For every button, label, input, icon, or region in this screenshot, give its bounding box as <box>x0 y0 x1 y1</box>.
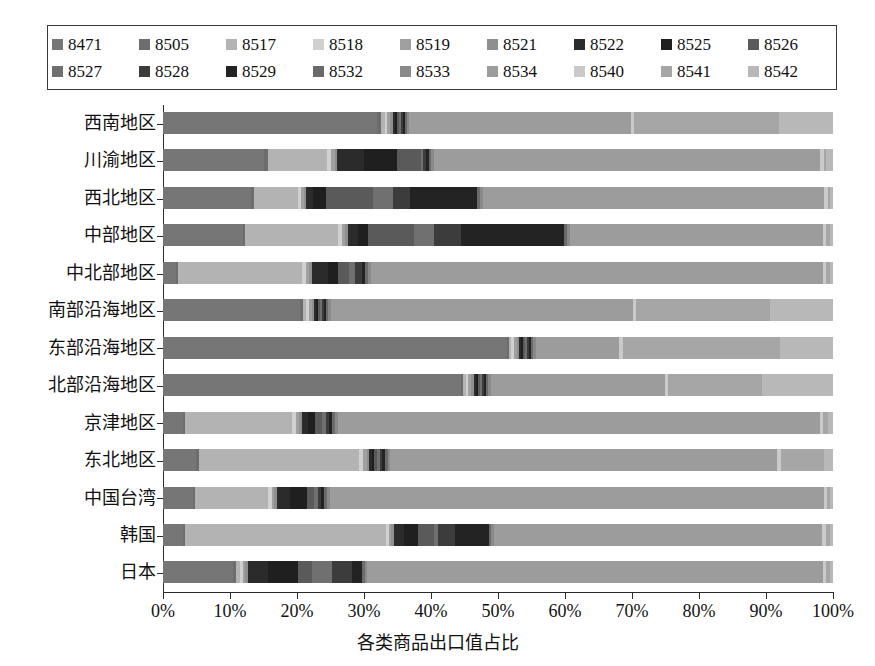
bar-segment-8534[interactable] <box>367 561 823 583</box>
bar-segment-8526[interactable] <box>368 224 415 246</box>
bar-segment-8526[interactable] <box>315 412 322 434</box>
bar-segment-8517[interactable] <box>185 524 386 546</box>
bar-segment-8534[interactable] <box>483 187 825 209</box>
bar-segment-8534[interactable] <box>536 337 619 359</box>
stacked-bar[interactable] <box>163 262 833 284</box>
stacked-bar[interactable] <box>163 561 833 583</box>
bar-segment-8517[interactable] <box>245 224 338 246</box>
bar-segment-8517[interactable] <box>268 149 328 171</box>
bar-segment-8517[interactable] <box>195 487 268 509</box>
bar-segment-8522[interactable] <box>248 561 268 583</box>
stacked-bar[interactable] <box>163 487 833 509</box>
bar-segment-8542[interactable] <box>830 187 833 209</box>
legend-item-8525[interactable]: 8525 <box>661 36 748 53</box>
bar-segment-8542[interactable] <box>830 487 833 509</box>
bar-segment-8522[interactable] <box>277 487 290 509</box>
bar-segment-8471[interactable] <box>163 337 507 359</box>
bar-segment-8525[interactable] <box>313 187 326 209</box>
bar-segment-8527[interactable] <box>414 224 434 246</box>
bar-segment-8542[interactable] <box>824 449 833 471</box>
bar-segment-8541[interactable] <box>781 449 824 471</box>
bar-segment-8525[interactable] <box>364 149 397 171</box>
bar-segment-8525[interactable] <box>358 224 368 246</box>
stacked-bar[interactable] <box>163 374 833 396</box>
stacked-bar[interactable] <box>163 112 833 134</box>
bar-segment-8534[interactable] <box>330 487 824 509</box>
bar-segment-8527[interactable] <box>312 561 332 583</box>
stacked-bar[interactable] <box>163 224 833 246</box>
legend-item-8534[interactable]: 8534 <box>487 63 574 80</box>
bar-segment-8517[interactable] <box>254 187 298 209</box>
legend-item-8527[interactable]: 8527 <box>52 63 139 80</box>
bar-segment-8471[interactable] <box>163 524 183 546</box>
stacked-bar[interactable] <box>163 299 833 321</box>
legend-item-8542[interactable]: 8542 <box>748 63 835 80</box>
bar-segment-8529[interactable] <box>455 524 489 546</box>
bar-segment-8471[interactable] <box>163 374 461 396</box>
bar-segment-8529[interactable] <box>410 187 477 209</box>
bar-segment-8526[interactable] <box>307 487 314 509</box>
bar-segment-8471[interactable] <box>163 187 251 209</box>
bar-segment-8528[interactable] <box>393 187 410 209</box>
legend-item-8519[interactable]: 8519 <box>400 36 487 53</box>
legend-item-8528[interactable]: 8528 <box>139 63 226 80</box>
legend-item-8540[interactable]: 8540 <box>574 63 661 80</box>
legend-item-8522[interactable]: 8522 <box>574 36 661 53</box>
bar-segment-8534[interactable] <box>331 299 633 321</box>
legend-item-8532[interactable]: 8532 <box>313 63 400 80</box>
bar-segment-8471[interactable] <box>163 487 193 509</box>
bar-segment-8541[interactable] <box>634 112 779 134</box>
bar-segment-8471[interactable] <box>163 561 233 583</box>
bar-segment-8471[interactable] <box>163 224 243 246</box>
bar-segment-8541[interactable] <box>636 299 770 321</box>
bar-segment-8517[interactable] <box>178 262 302 284</box>
bar-segment-8522[interactable] <box>394 524 404 546</box>
bar-segment-8528[interactable] <box>355 262 362 284</box>
bar-segment-8542[interactable] <box>780 337 833 359</box>
bar-segment-8542[interactable] <box>830 262 833 284</box>
bar-segment-8541[interactable] <box>668 374 762 396</box>
bar-segment-8471[interactable] <box>163 412 183 434</box>
stacked-bar[interactable] <box>163 449 833 471</box>
legend-item-8541[interactable]: 8541 <box>661 63 748 80</box>
bar-segment-8522[interactable] <box>337 149 364 171</box>
bar-segment-8542[interactable] <box>830 561 833 583</box>
bar-segment-8542[interactable] <box>762 374 833 396</box>
bar-segment-8517[interactable] <box>185 412 292 434</box>
bar-segment-8525[interactable] <box>290 487 307 509</box>
bar-segment-8542[interactable] <box>830 524 833 546</box>
bar-segment-8471[interactable] <box>163 149 264 171</box>
stacked-bar[interactable] <box>163 337 833 359</box>
bar-segment-8534[interactable] <box>338 412 820 434</box>
bar-segment-8534[interactable] <box>434 149 820 171</box>
legend-item-8505[interactable]: 8505 <box>139 36 226 53</box>
stacked-bar[interactable] <box>163 524 833 546</box>
bar-segment-8529[interactable] <box>352 561 362 583</box>
bar-segment-8542[interactable] <box>770 299 833 321</box>
bar-segment-8534[interactable] <box>371 262 823 284</box>
bar-segment-8542[interactable] <box>779 112 833 134</box>
legend-item-8518[interactable]: 8518 <box>313 36 400 53</box>
bar-segment-8528[interactable] <box>438 524 455 546</box>
bar-segment-8517[interactable] <box>199 449 359 471</box>
bar-segment-8525[interactable] <box>308 412 315 434</box>
legend-item-8533[interactable]: 8533 <box>400 63 487 80</box>
bar-segment-8471[interactable] <box>163 112 377 134</box>
bar-segment-8471[interactable] <box>163 449 196 471</box>
stacked-bar[interactable] <box>163 149 833 171</box>
legend-item-8526[interactable]: 8526 <box>748 36 835 53</box>
bar-segment-8528[interactable] <box>434 224 461 246</box>
bar-segment-8526[interactable] <box>397 149 420 171</box>
bar-segment-8525[interactable] <box>404 524 417 546</box>
stacked-bar[interactable] <box>163 187 833 209</box>
bar-segment-8528[interactable] <box>332 561 352 583</box>
bar-segment-8534[interactable] <box>570 224 823 246</box>
bar-segment-8522[interactable] <box>302 412 309 434</box>
bar-segment-8525[interactable] <box>268 561 298 583</box>
bar-segment-8529[interactable] <box>461 224 564 246</box>
bar-segment-8522[interactable] <box>312 262 329 284</box>
stacked-bar[interactable] <box>163 412 833 434</box>
bar-segment-8525[interactable] <box>328 262 338 284</box>
bar-segment-8542[interactable] <box>828 412 833 434</box>
bar-segment-8542[interactable] <box>830 224 833 246</box>
